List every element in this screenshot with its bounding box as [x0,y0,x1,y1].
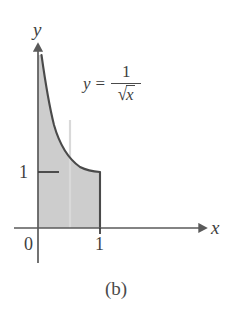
equation-lhs: y [83,74,91,94]
equation-denominator: √ x [115,84,138,105]
x-axis-label: x [211,218,219,237]
origin-tick-label: 0 [24,235,33,253]
equation-radicand: x [126,85,135,104]
equation-numerator: 1 [118,62,135,83]
x-axis-tick-label-1: 1 [95,235,104,253]
equation-fraction: 1 √ x [111,62,141,105]
radical-sign: √ [118,84,127,106]
equation-relation-sign: = [96,74,106,94]
y-axis-label: y [33,20,41,39]
y-axis-tick-label-1: 1 [19,163,28,181]
square-root-icon: √ x [118,85,135,105]
figure-caption: (b) [0,278,232,300]
graph-canvas [0,0,232,318]
equation-annotation: y = 1 √ x [83,62,141,105]
figure-container: y x 1 0 1 y = 1 √ x (b) [0,0,232,318]
